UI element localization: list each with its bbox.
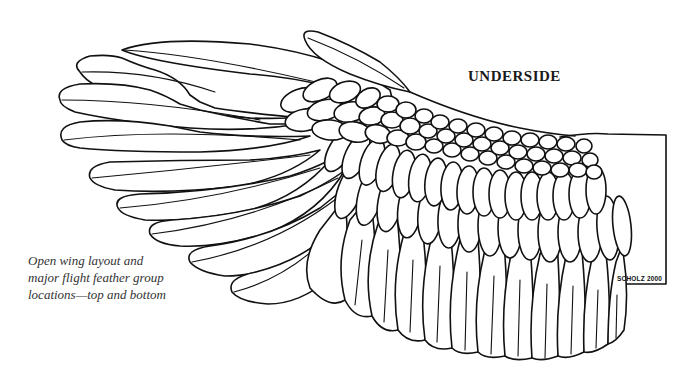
caption-line-2: major flight feather group — [28, 269, 228, 286]
underside-heading: UNDERSIDE — [468, 68, 561, 85]
wing-drawing — [0, 0, 698, 374]
wing-illustration: UNDERSIDE Open wing layout and major fli… — [0, 0, 698, 374]
caption-line-1: Open wing layout and — [28, 252, 228, 269]
caption-line-3: locations—top and bottom — [28, 286, 228, 303]
figure-caption: Open wing layout and major flight feathe… — [28, 252, 228, 303]
artist-signature: SCHOLZ 2000 — [617, 275, 662, 282]
